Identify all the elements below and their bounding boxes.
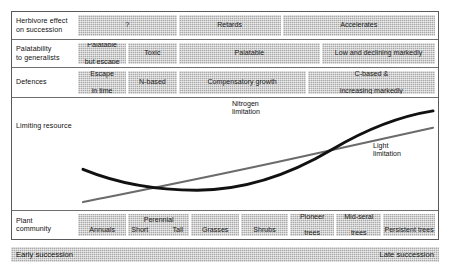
row-label-line2: to generalists [16, 54, 60, 62]
row-cells-plant-community: Annuals Perennial Short Tall Grasses Shr… [77, 213, 436, 237]
cell-annuals: Annuals [77, 213, 127, 237]
early-succession-label: Early succession [16, 250, 73, 259]
row-label-plant-community: Plant community [16, 211, 76, 239]
cell-palatable: Palatable [178, 42, 322, 65]
light-limitation-label: Light limitation [373, 142, 401, 159]
row-cells-defences: Escape in time N-based Compensatory grow… [77, 70, 436, 95]
cell-herbivore-retards: Retards [178, 14, 282, 37]
row-label-line1: Plant [16, 217, 33, 225]
chart-plot-area: Nitrogen limitation Light limitation [77, 98, 436, 210]
row-plant-community: Plant community Annuals Perennial Short … [12, 211, 438, 239]
cell-c-based-increasing: C-based & increasing markedly [307, 70, 436, 95]
limiting-resource-chart: Limiting resource Nitrogen limitation Li… [12, 98, 438, 211]
cell-mid-seral-trees: Mid-seral trees [335, 213, 382, 237]
cell-toxic: Toxic [127, 42, 177, 65]
row-label-palatability: Palatability to generalists [16, 40, 76, 67]
row-label-line2: on succession [16, 26, 62, 34]
nitrogen-limitation-label: Nitrogen limitation [232, 100, 260, 117]
row-label-herbivore-effect: Herbivore effect on succession [16, 12, 76, 39]
cell-perennial: Perennial Short Tall [127, 213, 190, 237]
cell-low-declining: Low and declining markedly [321, 42, 436, 65]
cell-perennial-title: Perennial [128, 216, 189, 224]
cell-n-based: N-based [127, 70, 177, 95]
late-succession-label: Late succession [380, 250, 434, 259]
light-limitation-curve [83, 128, 433, 202]
row-cells-herbivore: ? Retards Accelerates [77, 14, 436, 37]
cell-shrubs: Shrubs [240, 213, 288, 237]
row-defences: Defences Escape in time N-based Compensa… [12, 68, 438, 98]
cell-herbivore-unknown: ? [77, 14, 178, 37]
cell-pioneer-trees: Pioneer trees [289, 213, 336, 237]
cell-palatable-but-escape: Palatable but escape [77, 42, 127, 65]
cell-perennial-short: Short [131, 226, 148, 234]
cell-perennial-tall: Tall [172, 226, 183, 234]
succession-axis-bar: Early succession Late succession [11, 247, 439, 262]
row-label-line1: Palatability [16, 45, 52, 53]
cell-herbivore-accelerates: Accelerates [282, 14, 436, 37]
row-palatability: Palatability to generalists Palatable bu… [12, 40, 438, 68]
row-herbivore-effect: Herbivore effect on succession ? Retards… [12, 12, 438, 40]
cell-persistent-trees: Persistent trees [382, 213, 436, 237]
row-cells-palatability: Palatable but escape Toxic Palatable Low… [77, 42, 436, 65]
cell-escape-in-time: Escape in time [77, 70, 127, 95]
cell-compensatory-growth: Compensatory growth [178, 70, 307, 95]
row-label-line2: community [16, 225, 51, 233]
cell-grasses: Grasses [190, 213, 240, 237]
row-label-line1: Herbivore effect [16, 17, 68, 25]
row-label-defences: Defences [16, 68, 76, 97]
succession-figure: Herbivore effect on succession ? Retards… [11, 11, 439, 240]
